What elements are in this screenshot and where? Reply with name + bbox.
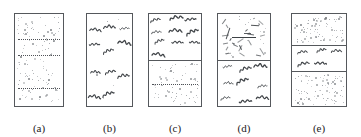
squiggle-mark <box>256 94 269 103</box>
panel-c-cell-1-squiggle <box>149 14 201 60</box>
panel-group-c: (c) <box>148 0 202 137</box>
panel-c-cell-2-stipple <box>149 60 201 107</box>
dotted-rule <box>18 39 60 40</box>
dotted-rule <box>152 84 198 85</box>
squiggle-mark <box>239 98 252 106</box>
squiggle-mark <box>154 38 165 46</box>
squiggle-mark <box>254 62 268 71</box>
panel-caption-a: (a) <box>14 122 64 135</box>
panel-group-a: (a) <box>14 0 64 137</box>
squiggle-mark <box>189 40 200 47</box>
panel-caption-b: (b) <box>86 122 133 135</box>
squiggle-mark <box>169 15 183 23</box>
panel-caption-e: (e) <box>291 122 347 135</box>
squiggle-mark <box>89 42 99 48</box>
squiggle-mark <box>235 76 249 86</box>
figure-panel-row: (a)(b)(c)(d)(e) <box>0 0 361 137</box>
panel-a-cell-1-stipple <box>15 14 63 106</box>
squiggle-mark <box>297 61 310 69</box>
solid-rule <box>232 37 256 38</box>
squiggle-mark <box>185 28 199 38</box>
panel-group-d: (d) <box>217 0 271 137</box>
panel-d-cell-2-squiggle <box>218 60 270 107</box>
squiggle-mark <box>151 51 165 60</box>
dash-mark <box>256 54 261 56</box>
squiggle-mark <box>171 40 182 46</box>
panel-d <box>217 13 271 107</box>
squiggle-mark <box>104 24 116 32</box>
panel-e-cell-3-stipple <box>292 71 346 107</box>
stipple-texture <box>15 14 63 106</box>
squiggle-mark <box>224 80 234 87</box>
squiggle-mark <box>185 16 197 23</box>
squiggle-mark <box>118 73 130 80</box>
panel-c <box>148 13 202 107</box>
panel-a <box>14 13 64 107</box>
dotted-rule <box>18 55 60 56</box>
panel-b-cell-1-squiggle <box>87 14 132 106</box>
squiggle-mark <box>150 17 161 25</box>
dotted-rule <box>18 88 60 89</box>
squiggle-mark <box>90 69 100 76</box>
squiggle-mark <box>168 28 182 36</box>
panel-group-e: (e) <box>291 0 347 137</box>
squiggle-mark <box>223 64 233 71</box>
dash-mark <box>223 42 228 44</box>
squiggle-mark <box>221 95 231 101</box>
stipple-texture <box>292 72 346 107</box>
panel-group-b: (b) <box>86 0 133 137</box>
panel-caption-d: (d) <box>217 122 271 135</box>
squiggle-mark <box>257 84 266 89</box>
squiggle-mark <box>152 30 162 35</box>
squiggle-mark <box>119 26 129 32</box>
squiggle-mark <box>239 66 252 75</box>
squiggle-mark <box>297 50 307 56</box>
panel-caption-c: (c) <box>148 122 202 135</box>
panel-b <box>86 13 133 107</box>
panel-e-cell-2-squiggle <box>292 45 346 72</box>
stipple-texture <box>292 14 346 45</box>
panel-e <box>291 13 347 107</box>
panel-d-cell-1-ticks <box>218 14 270 60</box>
squiggle-mark <box>314 61 326 68</box>
panel-e-cell-1-stipple <box>292 14 346 45</box>
squiggle-mark <box>316 48 326 55</box>
squiggle-mark <box>331 49 341 55</box>
